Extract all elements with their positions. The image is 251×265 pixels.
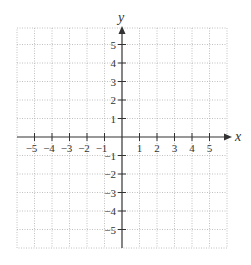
y-tick-label: 5 — [111, 39, 117, 51]
axes: x y — [17, 10, 242, 248]
x-tick-label: −2 — [78, 142, 90, 154]
x-tick-label: 4 — [189, 142, 195, 154]
x-tick-label: −4 — [43, 142, 55, 154]
y-axis-arrow-icon — [119, 26, 126, 34]
x-axis-arrow-icon — [224, 134, 232, 141]
y-axis-label: y — [116, 10, 125, 25]
x-tick-label: −3 — [61, 142, 73, 154]
x-tick-label: −5 — [26, 142, 38, 154]
y-tick-label: 4 — [111, 57, 117, 69]
y-tick-label: −3 — [104, 187, 116, 199]
y-tick-label: −2 — [104, 168, 116, 180]
y-tick-label: −4 — [104, 205, 116, 217]
y-tick-label: −5 — [104, 224, 116, 236]
x-tick-label: 3 — [172, 142, 178, 154]
x-tick-label: 2 — [154, 142, 160, 154]
coordinate-plane: x y −5−4−3−2−11234554321−1−2−3−4−5 — [0, 0, 251, 265]
y-tick-label: −1 — [104, 150, 116, 162]
x-tick-label: 1 — [137, 142, 143, 154]
x-tick-label: 5 — [207, 142, 213, 154]
y-tick-label: 1 — [111, 113, 117, 125]
x-axis-label: x — [234, 129, 242, 144]
y-tick-label: 3 — [111, 76, 117, 88]
y-tick-label: 2 — [111, 94, 117, 106]
